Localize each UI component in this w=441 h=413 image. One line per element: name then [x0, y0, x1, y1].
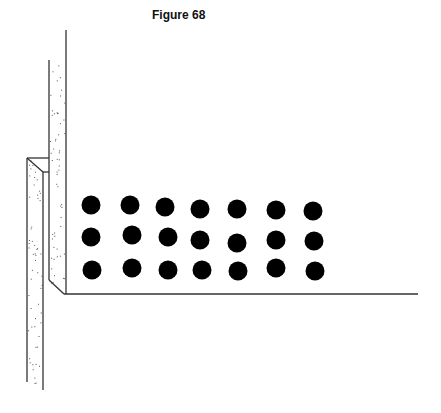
dot — [228, 234, 247, 253]
dot — [228, 200, 247, 219]
dot — [229, 262, 248, 281]
dot — [156, 198, 175, 217]
dot — [159, 261, 178, 280]
dot — [267, 231, 286, 250]
dot — [267, 259, 286, 278]
dot — [82, 196, 101, 215]
diagram-canvas — [0, 0, 441, 413]
speckle-texture — [28, 65, 65, 384]
back-wall — [49, 30, 66, 294]
dot — [306, 262, 325, 281]
dot — [304, 202, 323, 221]
dot — [191, 231, 210, 250]
dot — [121, 196, 140, 215]
dot — [159, 228, 178, 247]
dot — [123, 259, 142, 278]
dot — [82, 228, 101, 247]
dot — [193, 261, 212, 280]
dot — [191, 200, 210, 219]
dot — [123, 226, 142, 245]
front-slab — [27, 158, 49, 390]
dot — [305, 232, 324, 251]
dot-grid — [82, 196, 325, 281]
dot — [83, 261, 102, 280]
dot — [267, 201, 286, 220]
